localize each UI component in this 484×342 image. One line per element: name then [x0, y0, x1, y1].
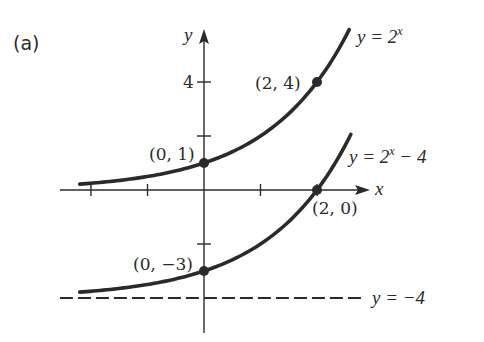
data-point — [312, 77, 322, 87]
data-point-label: (2, 0) — [312, 198, 358, 218]
x-axis-label: x — [374, 178, 384, 199]
data-point — [312, 185, 322, 195]
panel-label: (a) — [13, 32, 39, 54]
curve-series-1 — [80, 30, 350, 184]
y-axis-label: y — [182, 24, 193, 45]
exponential-graph: (a) x y 4 y = −4 (0, 1)(2, 4)(0, −3)(2, … — [0, 0, 484, 342]
y-tick-label: 4 — [183, 72, 194, 92]
curves — [80, 30, 351, 292]
data-point — [199, 266, 209, 276]
series-label-1: y = 2x — [355, 24, 403, 47]
series-labels: y = 2xy = 2x − 4 — [347, 24, 427, 167]
axes: x y 4 — [60, 24, 384, 333]
asymptote-label: y = −4 — [370, 287, 426, 308]
data-point-label: (0, 1) — [149, 144, 195, 164]
series-label-2: y = 2x − 4 — [347, 144, 427, 167]
data-point-label: (2, 4) — [255, 73, 301, 93]
data-point-label: (0, −3) — [133, 254, 193, 274]
data-point — [199, 158, 209, 168]
